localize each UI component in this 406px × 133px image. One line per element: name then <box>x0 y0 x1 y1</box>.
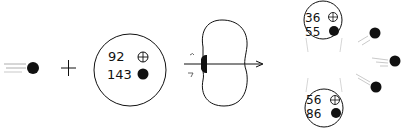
compound-nucleus <box>184 20 263 106</box>
svg-text:86: 86 <box>306 107 321 121</box>
proton-count: 92 <box>108 49 125 64</box>
fragment-krypton: 36 55 <box>304 1 342 52</box>
target-nucleus: 92 143 <box>94 34 166 106</box>
svg-text:56: 56 <box>306 93 321 107</box>
emitted-neutrons <box>356 28 401 93</box>
neutron-count: 143 <box>107 67 132 82</box>
svg-text:36: 36 <box>305 11 320 25</box>
plus-sign <box>61 60 76 76</box>
neutron-icon <box>138 69 149 80</box>
fragment-barium: 56 86 <box>305 78 343 127</box>
svg-text:55: 55 <box>305 25 320 39</box>
fission-diagram: 92 143 36 55 56 86 <box>0 0 406 133</box>
incoming-neutron <box>4 62 39 74</box>
